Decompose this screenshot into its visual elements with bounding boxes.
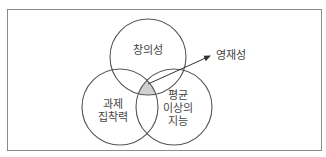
label-giftedness: 영재성 xyxy=(216,49,246,62)
label-line: 이상의 xyxy=(158,102,198,115)
label-task-commitment: 과제 집착력 xyxy=(93,98,133,124)
label-line: 과제 xyxy=(93,98,133,111)
label-line: 평균 xyxy=(158,89,198,102)
label-line: 지능 xyxy=(158,115,198,128)
venn-diagram xyxy=(0,0,326,157)
label-line: 집착력 xyxy=(93,111,133,124)
label-above-average-ability: 평균 이상의 지능 xyxy=(158,89,198,128)
label-creativity: 창의성 xyxy=(128,44,168,57)
